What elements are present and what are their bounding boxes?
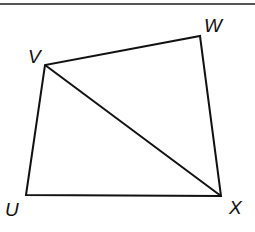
vertex-label-u: U (5, 200, 19, 219)
vertex-label-x: X (229, 198, 242, 217)
quadrilateral-uvwx (26, 36, 221, 196)
vertex-label-w: W (204, 16, 222, 35)
vertex-label-v: V (28, 47, 41, 66)
diagonal-vx (45, 65, 221, 196)
